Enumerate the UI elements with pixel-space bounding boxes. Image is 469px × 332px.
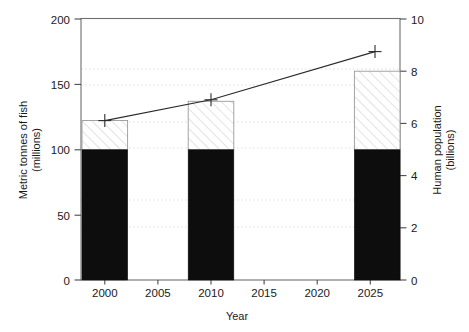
bar-segment-capture-2000 (82, 150, 128, 280)
bar-segment-capture-2025 (354, 150, 400, 280)
right-tick-label: 4 (411, 170, 418, 182)
x-tick-label: 2010 (198, 287, 224, 299)
bar-segment-capture-2010 (188, 150, 234, 280)
chart-figure: 200 150 100 50 0 10 8 6 4 2 0 2000 2005 … (0, 0, 469, 332)
left-tick-label: 0 (64, 275, 70, 287)
bar-segment-aquaculture-2025 (354, 71, 400, 150)
left-tick-label: 200 (51, 14, 70, 26)
right-tick-label: 2 (411, 222, 417, 234)
right-tick-label: 0 (411, 275, 417, 287)
bar-group-2000 (82, 121, 128, 281)
left-tick-label: 100 (51, 144, 70, 156)
chart-svg: 200 150 100 50 0 10 8 6 4 2 0 2000 2005 … (0, 0, 469, 332)
x-tick-label: 2025 (358, 287, 384, 299)
left-tick-label: 150 (51, 79, 70, 91)
x-axis-title: Year (226, 310, 249, 322)
bar-group-2010 (188, 101, 234, 280)
right-tick-label: 6 (411, 118, 417, 130)
x-tick-label: 2020 (304, 287, 330, 299)
left-axis-title-line2: (millions) (30, 128, 42, 172)
x-tick-label: 2015 (251, 287, 277, 299)
right-axis-title-line2: (billions) (444, 130, 456, 171)
x-tick-label: 2005 (145, 287, 171, 299)
bar-group-2025 (354, 71, 400, 280)
left-tick-label: 50 (57, 210, 70, 222)
left-axis-title-line1: Metric tonnes of fish (17, 101, 29, 199)
x-tick-label: 2000 (92, 287, 118, 299)
right-axis-title-line1: Human population (431, 105, 443, 194)
bar-segment-aquaculture-2010 (188, 101, 234, 150)
right-tick-label: 10 (411, 14, 424, 26)
right-tick-label: 8 (411, 66, 417, 78)
